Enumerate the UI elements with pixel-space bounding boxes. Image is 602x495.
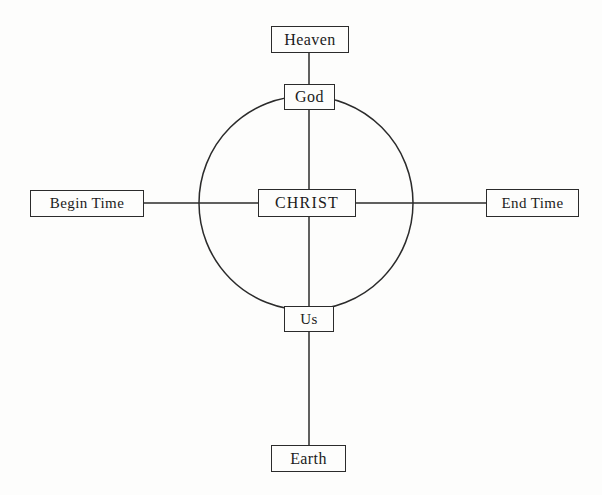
node-begin-time-label: Begin Time (50, 196, 124, 211)
diagram-canvas: Heaven God CHRIST Begin Time End Time Us… (0, 0, 602, 495)
node-christ-label: CHRIST (275, 195, 339, 211)
node-begin-time: Begin Time (30, 190, 144, 217)
node-christ: CHRIST (258, 189, 356, 217)
node-heaven: Heaven (271, 26, 349, 53)
node-earth-label: Earth (290, 451, 327, 467)
node-heaven-label: Heaven (284, 32, 335, 48)
node-us: Us (284, 306, 334, 332)
node-end-time-label: End Time (502, 196, 564, 211)
node-earth: Earth (271, 445, 346, 472)
node-god: God (284, 84, 335, 110)
node-god-label: God (295, 89, 324, 105)
node-us-label: Us (300, 312, 317, 327)
node-end-time: End Time (486, 189, 579, 217)
diagram-graphics (0, 0, 602, 495)
